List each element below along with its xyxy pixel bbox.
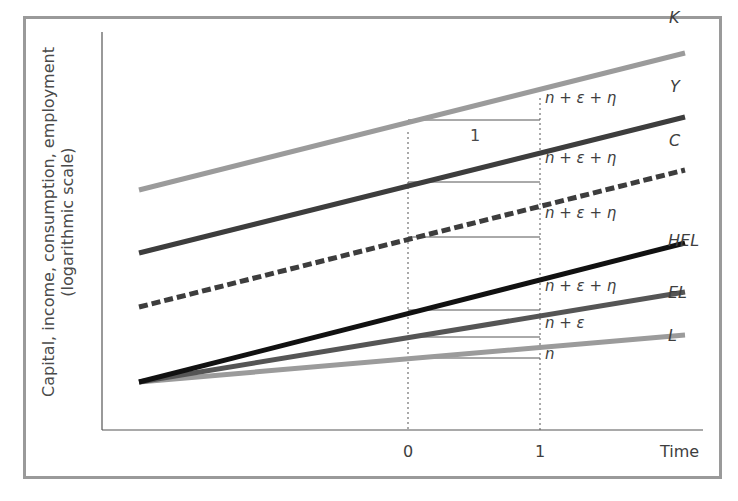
series-K (139, 53, 685, 190)
slope-label-HEL: n + ε + η (545, 277, 616, 295)
label-EL: EL (668, 283, 687, 302)
chart-canvas (0, 0, 738, 501)
slope-label-L: n (545, 345, 555, 363)
y-axis-label-line2: (logarithmic scale) (58, 42, 77, 402)
y-axis-label-line1: Capital, income, consumption, employment (39, 42, 58, 402)
x-tick-1: 1 (535, 442, 545, 461)
label-Y: Y (670, 77, 680, 96)
label-HEL: HEL (668, 231, 699, 250)
unit-run-label: 1 (470, 126, 480, 145)
series-HEL (139, 243, 685, 382)
series-EL (139, 292, 685, 382)
series-L (139, 335, 685, 382)
label-K: K (669, 8, 680, 27)
x-axis-label: Time (660, 442, 699, 461)
slope-label-Y: n + ε + η (545, 149, 616, 167)
slope-label-EL: n + ε (545, 314, 585, 332)
y-axis-label: Capital, income, consumption, employment… (39, 42, 77, 402)
slope-label-K: n + ε + η (545, 89, 616, 107)
label-C: C (669, 131, 680, 150)
slope-label-C: n + ε + η (545, 204, 616, 222)
label-L: L (668, 326, 677, 345)
x-tick-0: 0 (403, 442, 413, 461)
series-Y (139, 117, 685, 253)
